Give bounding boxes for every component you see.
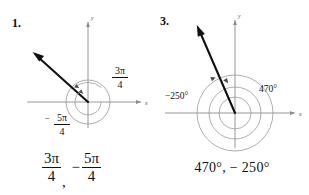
x-axis-label: x	[298, 111, 302, 117]
answer-first-numerator: 3π	[42, 151, 61, 168]
problem-1: 1.	[0, 0, 155, 195]
problem-3-answer: 470°, − 250°	[155, 160, 309, 176]
negative-angle-sign: −	[44, 113, 49, 123]
problem-1-answer: 3π 4 , − 5π 4	[0, 151, 149, 185]
answer-first-fraction: 3π 4	[42, 151, 61, 185]
negative-angle-label: −250°	[165, 91, 189, 101]
positive-rotation-arrowhead	[223, 78, 228, 83]
x-axis-label: x	[144, 100, 148, 106]
answer-second-sign: −	[72, 159, 81, 176]
answer-first-denominator: 4	[42, 168, 61, 184]
problem-3-figure: x y 470° −250°	[155, 0, 309, 150]
positive-angle-label: 470°	[259, 84, 277, 94]
positive-angle-label: 3π 4	[112, 65, 128, 90]
y-axis-label: y	[237, 13, 241, 19]
answer-second-denominator: 4	[82, 168, 101, 184]
negative-angle-label: − 5π 4	[44, 112, 70, 137]
positive-angle-numerator: 3π	[115, 65, 125, 76]
terminal-ray	[197, 25, 235, 113]
negative-angle-numerator: 5π	[57, 112, 67, 123]
answer-second-numerator: 5π	[82, 151, 101, 168]
problem-1-diagram: x y 3π 4 − 5π 4	[0, 0, 155, 150]
worksheet-page: 1.	[0, 0, 309, 195]
negative-angle-denominator: 4	[60, 126, 65, 137]
problem-3: 3.	[155, 0, 309, 195]
positive-angle-denominator: 4	[118, 79, 123, 90]
problem-1-figure: x y 3π 4 − 5π 4	[0, 0, 155, 150]
y-axis-label: y	[90, 15, 94, 21]
answer-second-fraction: 5π 4	[82, 151, 101, 185]
answer-separator: ,	[62, 174, 68, 191]
x-axis	[165, 111, 295, 115]
problem-3-diagram: x y 470° −250°	[155, 0, 309, 155]
x-axis	[27, 100, 141, 104]
y-axis	[86, 22, 90, 128]
terminal-ray	[33, 52, 89, 102]
